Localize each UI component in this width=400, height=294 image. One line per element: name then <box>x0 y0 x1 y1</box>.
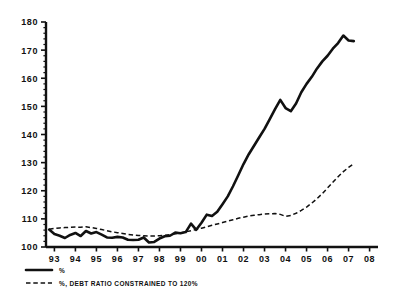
x-tick-label: 03 <box>259 254 270 264</box>
y-tick-label: 180 <box>21 17 38 27</box>
y-tick-label: 120 <box>21 186 38 196</box>
x-tick-label: 98 <box>154 254 165 264</box>
chart-container: 100110120130140150160170180 939495969798… <box>0 0 400 294</box>
x-tick-label: 00 <box>196 254 207 264</box>
x-tick-label: 04 <box>280 254 291 264</box>
y-tick-label: 130 <box>21 158 38 168</box>
x-tick-label: 95 <box>91 254 102 264</box>
x-tick-label: 08 <box>364 254 375 264</box>
series-group <box>49 36 354 243</box>
chart-legend: %%, DEBT RATIO CONSTRAINED TO 120% <box>26 267 198 288</box>
x-tick-label: 02 <box>238 254 249 264</box>
y-tick-label: 100 <box>21 242 38 252</box>
x-tick-label: 94 <box>70 254 81 264</box>
series-line-2 <box>49 164 354 236</box>
y-tick-label: 160 <box>21 74 38 84</box>
x-axis: 93949596979899000102030405060708 <box>46 247 378 264</box>
x-tick-label: 05 <box>301 254 312 264</box>
legend-label-2: %, DEBT RATIO CONSTRAINED TO 120% <box>59 280 198 288</box>
x-tick-label: 93 <box>49 254 60 264</box>
x-tick-label: 06 <box>322 254 333 264</box>
y-tick-label: 170 <box>21 46 38 56</box>
y-tick-label: 140 <box>21 130 38 140</box>
x-tick-label: 01 <box>217 254 228 264</box>
x-tick-label: 99 <box>175 254 186 264</box>
y-tick-label: 110 <box>22 214 38 224</box>
y-tick-label: 150 <box>21 102 38 112</box>
x-tick-label: 07 <box>343 254 354 264</box>
x-tick-label: 96 <box>112 254 123 264</box>
line-chart: 100110120130140150160170180 939495969798… <box>0 0 400 294</box>
legend-label-1: % <box>59 267 65 274</box>
y-axis: 100110120130140150160170180 <box>21 17 46 252</box>
series-line-1 <box>49 36 354 243</box>
x-tick-label: 97 <box>133 254 144 264</box>
